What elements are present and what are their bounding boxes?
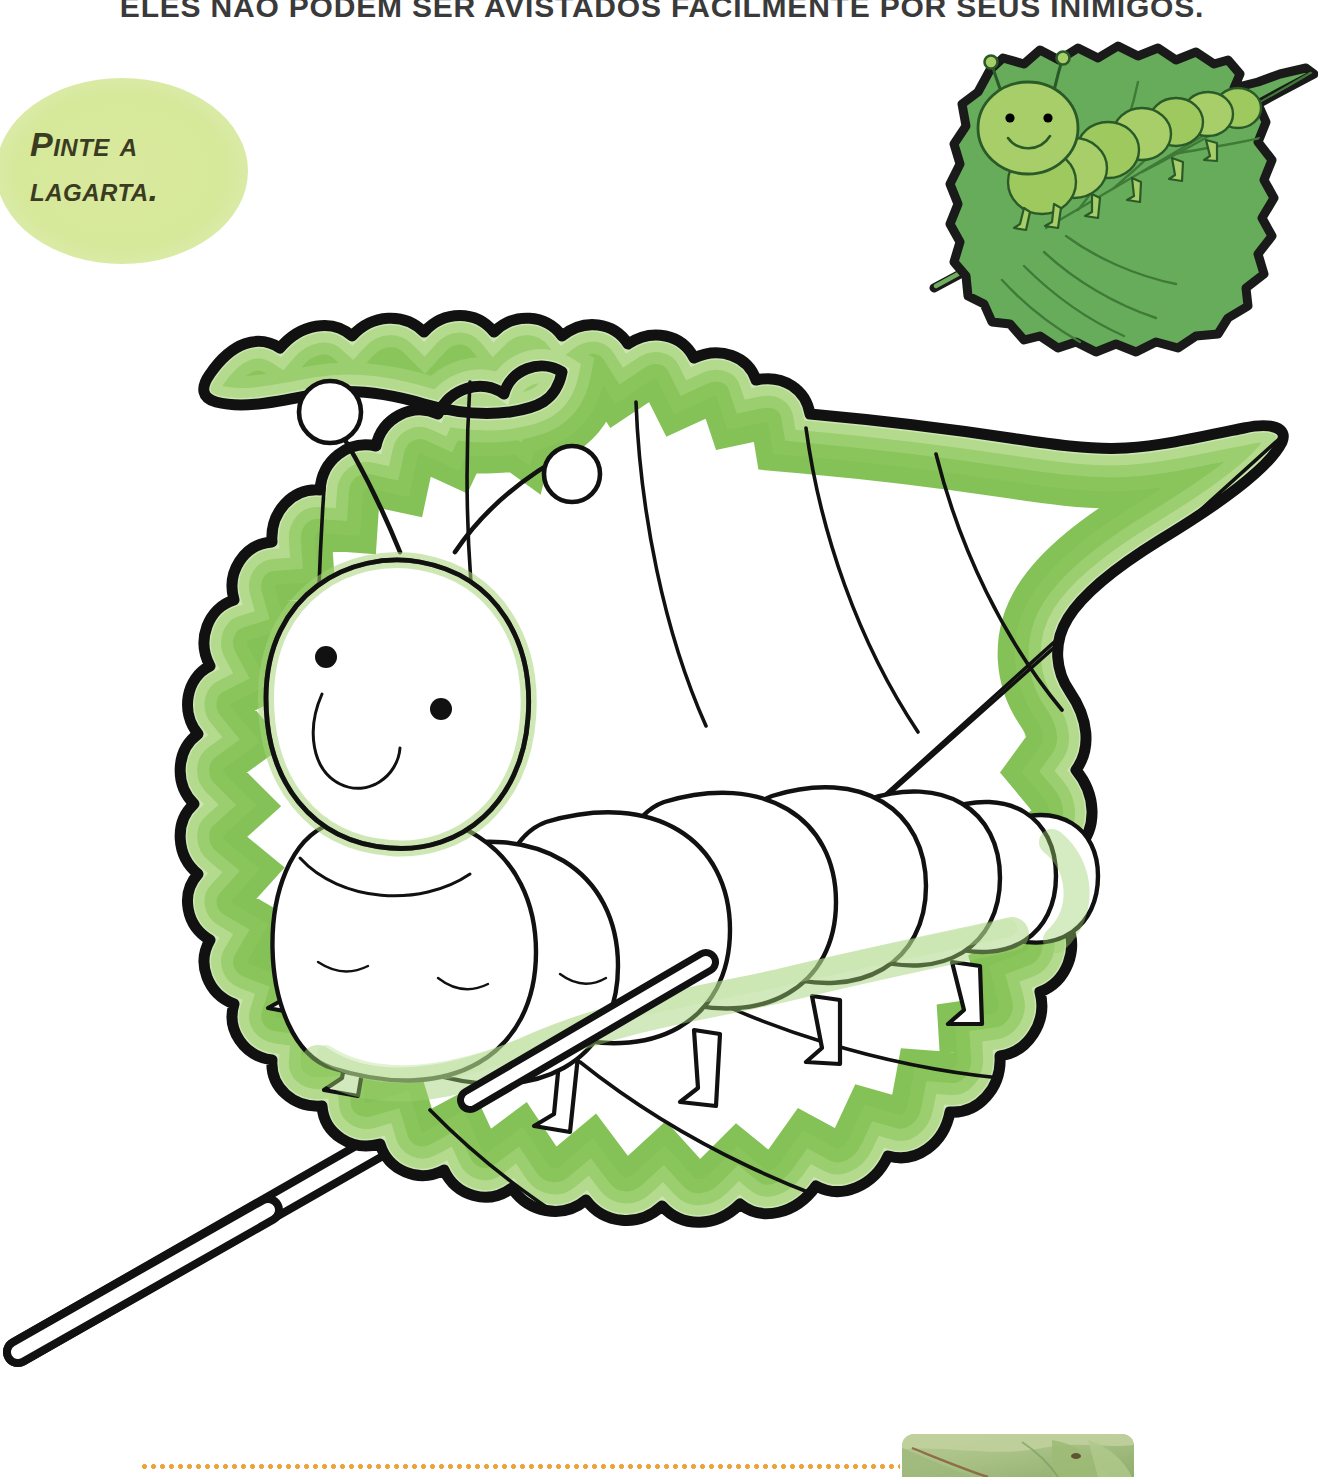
footer-dotted-rule: [140, 1462, 900, 1471]
reference-caterpillar-eye-right: [1043, 113, 1052, 122]
reference-antenna-tip-left: [985, 56, 998, 69]
caterpillar-head: [266, 560, 529, 848]
footer-photo: [902, 1434, 1134, 1477]
caterpillar-eye-left: [315, 646, 337, 668]
antenna-tip-left-icon: [299, 381, 361, 443]
prompt-bubble: Pinte a lagarta.: [0, 78, 248, 264]
prompt-bubble-line-1: Pinte a: [30, 122, 220, 167]
worksheet-page: ELES NÃO PODEM SER AVISTADOS FACILMENTE …: [0, 0, 1324, 1477]
prompt-bubble-text: Pinte a lagarta.: [30, 122, 220, 212]
antenna-tip-right-icon: [544, 446, 600, 502]
coloring-illustration: [0, 262, 1300, 1402]
footer-photo-svg: [902, 1434, 1134, 1477]
reference-caterpillar-head: [978, 82, 1078, 174]
header-instruction-text: ELES NÃO PODEM SER AVISTADOS FACILMENTE …: [0, 0, 1324, 24]
reference-antenna-tip-right: [1057, 52, 1070, 65]
reference-caterpillar-eye-left: [1005, 113, 1014, 122]
prompt-bubble-line-2: lagarta.: [30, 167, 220, 212]
caterpillar-eye-right: [430, 698, 452, 720]
coloring-illustration-svg: [0, 262, 1300, 1402]
